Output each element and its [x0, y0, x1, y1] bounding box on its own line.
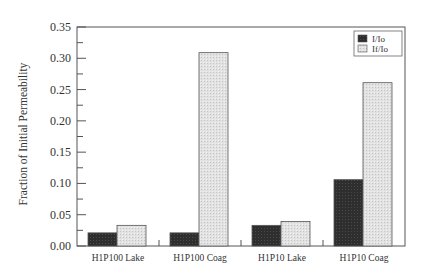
x-tick-label: H1P100 Lake: [92, 253, 145, 263]
bar-if-io: [363, 83, 392, 246]
bar-i-io: [334, 180, 363, 246]
y-tick-label: 0.15: [50, 145, 71, 159]
x-tick-label: H1P10 Coag: [340, 253, 389, 263]
y-tick-label: 0.30: [50, 51, 71, 65]
bar-i-io: [170, 233, 199, 246]
bar-if-io: [117, 225, 146, 246]
bar-if-io: [199, 53, 228, 246]
bar-i-io: [88, 233, 117, 246]
y-tick-label: 0.20: [50, 114, 71, 128]
y-tick-label: 0.10: [50, 176, 71, 190]
legend-label: I/Io: [372, 34, 385, 44]
bar-chart: 0.000.050.100.150.200.250.300.35H1P100 L…: [0, 0, 423, 277]
x-tick-label: H1P10 Lake: [258, 253, 306, 263]
y-tick-label: 0.35: [50, 20, 71, 34]
y-tick-label: 0.05: [50, 208, 71, 222]
legend-label: If/Io: [372, 44, 388, 54]
y-tick-label: 0.00: [50, 239, 71, 253]
y-tick-label: 0.25: [50, 83, 71, 97]
legend-swatch: [358, 35, 367, 42]
bar-i-io: [252, 225, 281, 246]
bar-if-io: [281, 222, 310, 246]
x-tick-label: H1P100 Coag: [173, 253, 227, 263]
legend-swatch: [358, 45, 367, 52]
